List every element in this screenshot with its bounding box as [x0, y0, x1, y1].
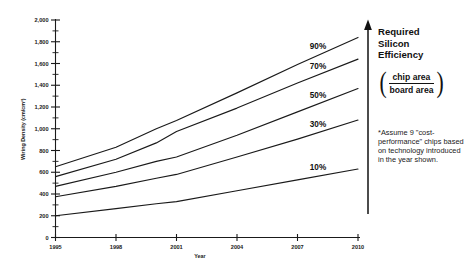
y-tick-label: 1,800 [35, 39, 49, 45]
paren-left: ( [379, 74, 386, 90]
x-tick-label: 1998 [110, 244, 122, 250]
y-tick-label: 600 [39, 169, 48, 175]
y-tick-label: 1,400 [35, 82, 49, 88]
fraction-denominator: board area [389, 84, 435, 96]
series-labels-group: 90%70%50%30%10% [310, 42, 327, 172]
y-tick-label: 2,000 [35, 17, 49, 23]
fraction-numerator: chip area [389, 72, 435, 85]
y-tick-label: 1,600 [35, 61, 49, 67]
x-tick-label: 2001 [170, 244, 182, 250]
panel-title-line-1: Required [378, 26, 467, 38]
chart-figure: 02004006008001,0001,2001,4001,6001,8002,… [0, 0, 467, 270]
series-curve [56, 37, 359, 166]
paren-right: ) [436, 74, 443, 90]
y-axis-ticks [51, 20, 60, 238]
y-tick-label: 1,200 [35, 104, 49, 110]
x-tick-label: 2007 [291, 244, 303, 250]
efficiency-fraction: ( chip area board area ) [378, 70, 467, 98]
series-label-10: 10% [310, 163, 327, 172]
series-curve [56, 120, 359, 197]
y-tick-label: 800 [39, 148, 48, 154]
series-label-50: 50% [310, 91, 327, 100]
series-label-30: 30% [310, 120, 327, 129]
efficiency-direction-arrow [364, 20, 372, 215]
y-tick-label: 0 [45, 235, 48, 241]
fraction-body: chip area board area [388, 72, 435, 96]
side-panel: Required Silicon Efficiency ( chip area … [378, 26, 467, 98]
x-axis-title: Year [194, 253, 206, 259]
series-label-90: 90% [310, 42, 327, 51]
y-tick-label: 200 [39, 213, 48, 219]
y-axis-tick-labels: 02004006008001,0001,2001,4001,6001,8002,… [35, 17, 49, 241]
series-curve [56, 59, 359, 176]
panel-title: Required Silicon Efficiency [378, 26, 467, 61]
panel-title-line-3: Efficiency [378, 49, 467, 61]
panel-title-line-2: Silicon [378, 38, 467, 50]
x-tick-label: 1995 [49, 244, 61, 250]
footnote-text: *Assume 9 "cost-performance" chips based… [378, 128, 464, 164]
x-axis-tick-labels: 199519982001200420072010 [49, 244, 364, 250]
x-tick-label: 2010 [352, 244, 364, 250]
y-tick-label: 1,000 [35, 126, 49, 132]
series-label-70: 70% [310, 62, 327, 71]
x-tick-label: 2004 [231, 244, 244, 250]
y-tick-label: 400 [39, 191, 48, 197]
y-axis-title: Wiring Density (cm/cm²) [20, 98, 26, 160]
